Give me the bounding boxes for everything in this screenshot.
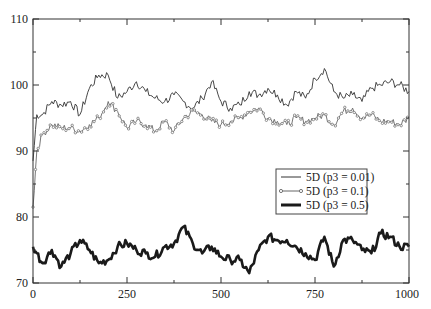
series-marker-icon	[278, 124, 280, 126]
series-marker-icon	[112, 103, 114, 105]
y-tick-label-80: 80	[16, 210, 28, 224]
series-marker-icon	[58, 125, 60, 127]
series-marker-icon	[322, 113, 324, 115]
series-marker-icon	[381, 122, 383, 124]
series-marker-icon	[334, 125, 336, 127]
series-marker-icon	[250, 111, 252, 113]
series-marker-icon	[131, 120, 133, 122]
series-marker-icon	[287, 119, 289, 121]
series-marker-icon	[209, 117, 211, 119]
series-marker-icon	[96, 115, 98, 117]
axis-ticks	[33, 19, 409, 283]
series-marker-icon	[290, 124, 292, 126]
series-marker-icon	[87, 128, 89, 130]
series-marker-icon	[171, 131, 173, 133]
y-tick-label-100: 100	[10, 78, 28, 92]
series-marker-icon	[37, 147, 39, 149]
series-marker-icon	[325, 114, 327, 116]
series-line-0	[33, 69, 409, 161]
series-marker-icon	[297, 115, 299, 117]
series-marker-icon	[347, 110, 349, 112]
series-marker-icon	[265, 119, 267, 121]
series-marker-icon	[215, 119, 217, 121]
series-marker-icon	[193, 109, 195, 111]
series-marker-icon	[134, 122, 136, 124]
series-marker-icon	[387, 121, 389, 123]
y-tick-label-90: 90	[16, 144, 28, 158]
series-marker-icon	[109, 105, 111, 107]
series-marker-icon	[196, 112, 198, 114]
series-marker-icon	[372, 112, 374, 114]
series-marker-icon	[146, 127, 148, 129]
series-marker-icon	[99, 117, 101, 119]
series-marker-icon	[231, 121, 233, 123]
series-marker-icon	[337, 117, 339, 119]
series-marker-icon	[359, 118, 361, 120]
series-marker-icon	[340, 112, 342, 114]
series-marker-icon	[49, 124, 51, 126]
legend-label-p3-0.01: 5D (p3 = 0.01)	[306, 171, 375, 184]
series-marker-icon	[268, 118, 270, 120]
series-marker-icon	[366, 113, 368, 115]
series-marker-icon	[240, 115, 242, 117]
series-marker-icon	[397, 124, 399, 126]
series-marker-icon	[77, 130, 79, 132]
series-marker-icon	[243, 114, 245, 116]
series-marker-icon	[369, 114, 371, 116]
series-marker-icon	[228, 124, 230, 126]
series-marker-icon	[262, 112, 264, 114]
series-marker-icon	[84, 127, 86, 129]
series-marker-icon	[187, 117, 189, 119]
series-marker-icon	[68, 127, 70, 129]
series-marker-icon	[303, 123, 305, 125]
y-tick-label-110: 110	[10, 12, 28, 26]
x-tick-label-500: 500	[212, 287, 230, 301]
series-marker-icon	[162, 121, 164, 123]
series-marker-icon	[306, 121, 308, 123]
series-marker-icon	[344, 106, 346, 108]
series-marker-icon	[378, 119, 380, 121]
series-marker-icon	[152, 131, 154, 133]
series-marker-icon	[65, 129, 67, 131]
series-marker-icon	[52, 126, 54, 128]
series-marker-icon	[253, 108, 255, 110]
series-marker-icon	[362, 117, 364, 119]
series-marker-icon	[391, 121, 393, 123]
series-marker-icon	[80, 131, 82, 133]
legend-marker-icon	[299, 189, 302, 192]
series-marker-icon	[46, 129, 48, 131]
series-marker-icon	[353, 111, 355, 113]
series-marker-icon	[165, 120, 167, 122]
line-chart: 110 100 90 80 70 0 250 500 750 1000 5D (…	[0, 0, 431, 309]
series-marker-icon	[190, 109, 192, 111]
series-marker-icon	[62, 128, 64, 130]
series-marker-icon	[328, 121, 330, 123]
x-tick-label-750: 750	[306, 287, 324, 301]
series-marker-icon	[74, 132, 76, 134]
series-marker-icon	[140, 122, 142, 124]
series-marker-icon	[149, 126, 151, 128]
series-marker-icon	[312, 118, 314, 120]
series-marker-icon	[34, 168, 36, 170]
series-marker-icon	[156, 130, 158, 132]
x-tick-label-250: 250	[118, 287, 136, 301]
series-marker-icon	[221, 120, 223, 122]
series-marker-icon	[246, 111, 248, 113]
series-marker-icon	[256, 110, 258, 112]
series-marker-icon	[127, 128, 129, 130]
series-marker-icon	[331, 123, 333, 125]
series-marker-icon	[218, 126, 220, 128]
series-marker-icon	[206, 118, 208, 120]
series-marker-icon	[184, 115, 186, 117]
series-marker-icon	[90, 126, 92, 128]
series-marker-icon	[234, 115, 236, 117]
series-marker-icon	[124, 124, 126, 126]
series-marker-icon	[178, 123, 180, 125]
series-marker-icon	[315, 118, 317, 120]
series-marker-icon	[40, 134, 42, 136]
series-marker-icon	[319, 114, 321, 116]
series-marker-icon	[115, 108, 117, 110]
series-marker-icon	[225, 124, 227, 126]
series-marker-icon	[281, 122, 283, 124]
series-marker-icon	[350, 110, 352, 112]
